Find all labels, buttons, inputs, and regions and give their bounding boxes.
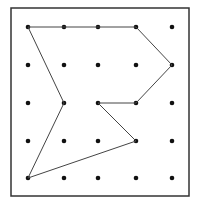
grid-dot (170, 25, 175, 30)
grid-dot (26, 101, 31, 106)
grid-dot (62, 139, 67, 144)
grid-dot (96, 176, 101, 181)
grid-dot (26, 139, 31, 144)
grid-dot (134, 63, 139, 68)
grid-dot (26, 63, 31, 68)
polygon-shape (28, 27, 172, 178)
grid-dot (170, 176, 175, 181)
grid-dot (62, 63, 67, 68)
grid-dot (96, 63, 101, 68)
grid-dot (170, 139, 175, 144)
dot-grid-diagram (0, 0, 197, 208)
grid-dot (134, 176, 139, 181)
grid-dot (62, 176, 67, 181)
grid-dot (96, 139, 101, 144)
grid-dot (170, 101, 175, 106)
